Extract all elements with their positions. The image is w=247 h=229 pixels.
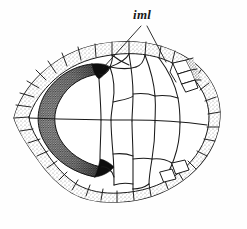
turtle-shell-drawing — [0, 0, 247, 229]
label-iml: iml — [133, 8, 151, 21]
figure-container: iml — [0, 0, 247, 229]
